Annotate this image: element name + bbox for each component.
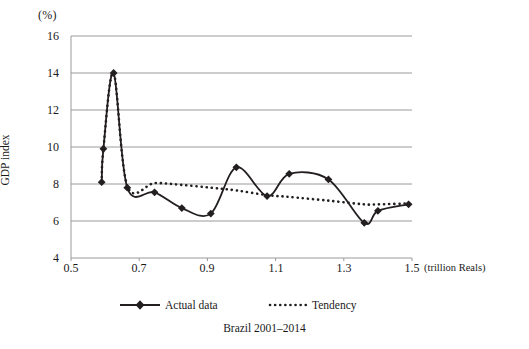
legend-label-actual-data: Actual data (165, 299, 218, 311)
legend-item-tendency[interactable]: Tendency (266, 297, 357, 313)
data-point-marker (405, 200, 413, 208)
legend-label-tendency: Tendency (312, 299, 357, 311)
legend-swatch-tendency (266, 297, 308, 313)
legend-swatch-actual-data (119, 297, 161, 313)
chart-figure: (%) GDP index 16 14 12 10 8 6 4 0.5 0.7 … (0, 0, 529, 349)
series-markers-actual-data (98, 69, 413, 227)
figure-caption: Brazil 2001–2014 (0, 322, 529, 334)
data-point-marker (99, 145, 107, 153)
data-point-marker (285, 170, 293, 178)
gridlines (71, 36, 412, 221)
data-point-marker (263, 192, 271, 200)
data-point-marker (151, 188, 159, 196)
data-point-marker (178, 204, 186, 212)
legend-item-actual-data[interactable]: Actual data (119, 297, 218, 313)
chart-legend: Actual data Tendency (0, 297, 529, 317)
data-point-marker (98, 178, 106, 186)
series-line-actual-data (102, 73, 409, 224)
